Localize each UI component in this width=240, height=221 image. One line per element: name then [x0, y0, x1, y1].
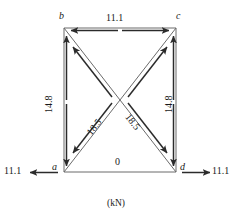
node-label-d: d	[180, 162, 185, 172]
member-value-ab: 14.8	[44, 96, 54, 114]
figure-caption: (kN)	[107, 199, 125, 209]
force-arrow-bd-upper	[73, 47, 112, 97]
truss-force-diagram: b c a d 11.1 14.8 14.8 0 18.5 18.5 11.1 …	[0, 0, 240, 221]
force-arrow-ac-upper	[128, 47, 167, 97]
member-value-cd: 14.8	[164, 96, 174, 114]
truss-outline	[64, 28, 176, 172]
reaction-value-left: 11.1	[4, 166, 21, 176]
node-label-a: a	[52, 162, 57, 172]
diagram-canvas	[0, 0, 240, 221]
node-label-c: c	[176, 11, 180, 21]
node-label-b: b	[59, 11, 64, 21]
member-value-ad: 0	[115, 157, 120, 167]
member-value-bc: 11.1	[106, 13, 123, 23]
reaction-value-right: 11.1	[212, 166, 229, 176]
